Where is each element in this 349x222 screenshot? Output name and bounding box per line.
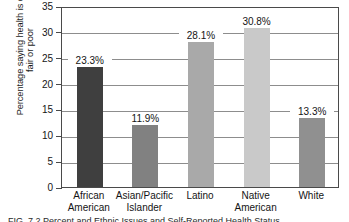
bar	[132, 125, 158, 187]
y-tick-label: 15	[31, 104, 53, 115]
x-category-line: Islander	[108, 202, 180, 214]
bar-value-label: 11.9%	[123, 113, 167, 124]
bar-value-label: 30.8%	[235, 16, 279, 27]
y-axis-title-line-1: Percentage saying health is only	[15, 0, 25, 115]
x-category-line: American	[220, 202, 292, 214]
bar-value-label: 23.3%	[68, 55, 112, 66]
bar	[244, 28, 270, 187]
y-tick-label: 0	[31, 182, 53, 193]
y-tick-label: 35	[31, 1, 53, 12]
bar	[299, 118, 325, 187]
y-tick-label: 10	[31, 130, 53, 141]
bar-value-label: 28.1%	[179, 30, 223, 41]
bar-chart-figure: Percentage saying health is only fair or…	[0, 0, 349, 222]
x-category-label: White	[275, 190, 347, 202]
y-tick-label: 5	[31, 156, 53, 167]
y-axis-title: Percentage saying health is only fair or…	[10, 0, 40, 144]
plot-area: 23.3%11.9%28.1%30.8%13.3%	[61, 7, 339, 188]
bar	[77, 67, 103, 187]
x-axis-category-labels: AfricanAmericanAsian/PacificIslanderLati…	[61, 190, 339, 218]
y-tick-label: 30	[31, 27, 53, 38]
bar-value-label: 13.3%	[290, 106, 334, 117]
y-tick-label: 25	[31, 53, 53, 64]
x-category-line: White	[275, 190, 347, 202]
bar	[188, 42, 214, 187]
figure-caption: FIG. 7.2 Percent and Ethnic Issues and S…	[8, 216, 349, 222]
y-tick-label: 20	[31, 79, 53, 90]
